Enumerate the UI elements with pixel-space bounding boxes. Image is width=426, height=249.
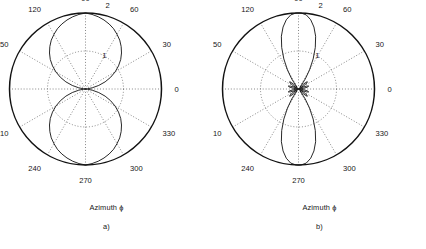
angle-tick-label-330: 330 — [163, 129, 176, 138]
angle-tick-label-120: 120 — [241, 5, 254, 14]
angle-tick-label-210: 210 — [0, 129, 8, 138]
polar-plot-a: 030609012015018021024027030033012 — [0, 0, 213, 200]
radial-tick-label-2: 2 — [105, 1, 109, 10]
polar-plot-b: 030609012015018021024027030033012 — [213, 0, 426, 200]
grid-spoke-210 — [233, 89, 299, 127]
axis-label-a: Azimuth ϕ — [0, 203, 213, 212]
grid-spoke-240 — [48, 89, 86, 155]
angle-tick-label-300: 300 — [130, 164, 143, 173]
grid-spoke-330 — [299, 89, 365, 127]
angle-tick-label-90: 90 — [294, 0, 302, 3]
grid-spoke-30 — [86, 51, 152, 89]
radial-tick-label-1: 1 — [315, 51, 319, 60]
subcaption-b: b) — [213, 222, 426, 231]
angle-tick-label-120: 120 — [28, 5, 41, 14]
angle-tick-label-150: 150 — [213, 40, 221, 49]
grid-spoke-210 — [20, 89, 86, 127]
polar-pattern-figure: 030609012015018021024027030033012 Azimut… — [0, 0, 426, 249]
grid-spoke-120 — [48, 23, 86, 89]
panel-a: 030609012015018021024027030033012 Azimut… — [0, 0, 213, 249]
subcaption-a: a) — [0, 222, 213, 231]
panel-b: 030609012015018021024027030033012 Azimut… — [213, 0, 426, 249]
angle-tick-label-270: 270 — [292, 176, 305, 185]
angle-tick-label-90: 90 — [81, 0, 89, 3]
angle-tick-label-30: 30 — [163, 40, 171, 49]
grid-spoke-150 — [233, 51, 299, 89]
angle-tick-label-60: 60 — [130, 5, 138, 14]
angle-tick-label-0: 0 — [175, 85, 179, 94]
grid-spoke-240 — [261, 89, 299, 155]
angle-tick-label-60: 60 — [343, 5, 351, 14]
angle-tick-label-300: 300 — [343, 164, 356, 173]
angle-tick-label-30: 30 — [376, 40, 384, 49]
polar-axes-b: 030609012015018021024027030033012 — [213, 0, 426, 200]
angle-tick-label-150: 150 — [0, 40, 8, 49]
angle-tick-label-270: 270 — [79, 176, 92, 185]
angle-tick-label-240: 240 — [28, 164, 41, 173]
grid-spoke-120 — [261, 23, 299, 89]
axis-label-b: Azimuth ϕ — [213, 203, 426, 212]
angle-tick-label-240: 240 — [241, 164, 254, 173]
polar-axes-a: 030609012015018021024027030033012 — [0, 0, 213, 200]
grid-spoke-300 — [299, 89, 337, 155]
radial-tick-label-1: 1 — [102, 51, 106, 60]
radial-tick-label-2: 2 — [318, 1, 322, 10]
angle-tick-label-330: 330 — [376, 129, 389, 138]
grid-spoke-300 — [86, 89, 124, 155]
grid-spoke-30 — [299, 51, 365, 89]
grid-spoke-150 — [20, 51, 86, 89]
grid-spoke-330 — [86, 89, 152, 127]
angle-tick-label-210: 210 — [213, 129, 221, 138]
angle-tick-label-0: 0 — [388, 85, 392, 94]
